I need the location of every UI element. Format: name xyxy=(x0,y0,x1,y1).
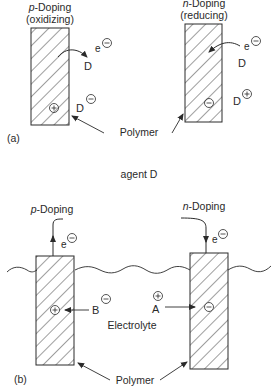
electron-out-wire-b xyxy=(53,219,63,256)
minus-circle-icon xyxy=(87,95,96,104)
minus-circle-icon xyxy=(252,37,261,46)
electron-in-wire-b xyxy=(181,218,206,253)
panel-a: p-Doping (oxidizing) e D D n-Doping (red… xyxy=(7,0,261,144)
minus-circle-icon xyxy=(102,295,111,304)
plus-circle-icon xyxy=(154,292,163,301)
panel-tag-a: (a) xyxy=(7,132,20,144)
minus-circle-icon xyxy=(103,39,112,48)
doping-diagram: p-Doping (oxidizing) e D D n-Doping (red… xyxy=(0,0,278,391)
minus-circle-icon xyxy=(68,234,77,243)
minus-circle-icon xyxy=(205,303,214,312)
electron-label-b-right: e xyxy=(212,234,218,245)
dopant-d-a-right-top: D xyxy=(238,57,246,69)
electrolyte-surface xyxy=(228,266,271,272)
polymer-pointer-b-left xyxy=(78,363,110,380)
minus-circle-icon xyxy=(219,230,228,239)
plus-circle-icon xyxy=(51,306,60,315)
polymer-label-a: Polymer xyxy=(120,126,159,138)
polymer-pointer-a-right xyxy=(172,114,183,133)
polymer-pointer-b-right xyxy=(160,362,187,380)
p-doping-title-b: p-Doping xyxy=(30,203,74,215)
electron-label-a-right: e xyxy=(244,41,250,52)
n-doping-title-a: n-Doping xyxy=(183,0,226,9)
cation-a-label: A xyxy=(152,303,160,315)
n-doping-title-b: n-Doping xyxy=(183,200,226,212)
plus-circle-icon xyxy=(243,90,252,99)
polymer-electrode-a-right xyxy=(185,24,222,122)
panel-tag-b: (b) xyxy=(14,373,27,385)
anion-b-label: B xyxy=(92,304,99,316)
p-doping-title-a: p-Doping xyxy=(28,1,72,13)
oxidizing-label: (oxidizing) xyxy=(26,13,74,25)
electron-label-b-left: e xyxy=(61,239,67,250)
electron-label-a-left: e xyxy=(95,43,101,54)
panel-b: p-Doping e B n-Doping e A Electrolyte Po… xyxy=(7,200,271,386)
reducing-label: (reducing) xyxy=(180,9,227,21)
dopant-d-a-left-bottom: D xyxy=(76,102,84,114)
polymer-pointer-a-left xyxy=(72,116,104,133)
polymer-label-b: Polymer xyxy=(116,374,155,386)
dopant-d-a-right-bottom: D xyxy=(233,95,241,107)
agent-d-caption: agent D xyxy=(121,168,158,180)
dopant-d-a-left-top: D xyxy=(84,60,92,72)
electrolyte-surface xyxy=(75,266,190,274)
electrolyte-surface xyxy=(7,267,37,272)
electrolyte-label: Electrolyte xyxy=(107,319,156,331)
